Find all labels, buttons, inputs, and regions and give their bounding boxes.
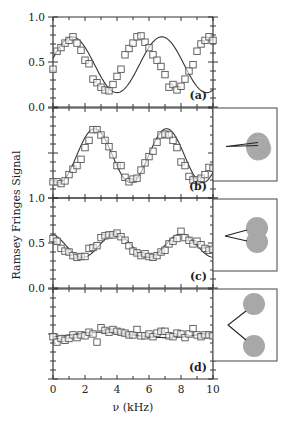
data-point-marker <box>94 339 100 345</box>
sphere-icon <box>246 231 268 253</box>
panel-label: (d) <box>189 361 207 374</box>
data-point-marker <box>138 33 144 39</box>
data-point-marker <box>74 162 80 168</box>
inset-frame <box>213 199 277 271</box>
data-point-marker <box>138 167 144 173</box>
y-tick-label: 1.0 <box>28 11 45 23</box>
data-point-marker <box>154 57 160 63</box>
data-point-marker <box>158 63 164 69</box>
data-point-marker <box>102 137 108 143</box>
data-point-marker <box>86 137 92 143</box>
ramsey-fringes-figure: 1.00.50.0(a)(b)1.00.50.0(c)(d) 0246810 ν… <box>0 0 291 427</box>
data-point-marker <box>70 34 76 40</box>
data-point-marker <box>174 144 180 150</box>
data-point-marker <box>182 162 188 168</box>
data-point-marker <box>190 62 196 68</box>
data-point-marker <box>50 66 56 72</box>
panel-c: 1.00.50.0(c) <box>28 192 218 294</box>
panel-a: 1.00.50.0(a) <box>28 11 218 113</box>
data-point-marker <box>110 152 116 158</box>
data-point-marker <box>78 47 84 53</box>
data-point-marker <box>162 71 168 77</box>
data-point-marker <box>142 160 148 166</box>
data-point-marker <box>130 40 136 46</box>
y-tick-label: 0.0 <box>28 101 45 113</box>
data-point-marker <box>178 228 184 234</box>
data-point-marker <box>86 61 92 67</box>
x-tick-label: 2 <box>82 383 89 395</box>
sphere-icon <box>243 335 265 357</box>
data-point-marker <box>186 68 192 74</box>
data-point-marker <box>118 66 124 72</box>
inset-d <box>213 289 277 361</box>
inset-b <box>213 108 277 181</box>
panel-label: (a) <box>189 89 207 102</box>
panel-d: (d) <box>48 289 218 379</box>
data-point-marker <box>78 156 84 162</box>
y-tick-label: 0.0 <box>28 282 45 294</box>
data-point-marker <box>190 325 196 331</box>
data-point-marker <box>182 76 188 82</box>
data-point-marker <box>94 243 100 249</box>
x-axis-title: ν (kHz) <box>113 401 154 414</box>
y-tick-label: 0.5 <box>28 237 45 249</box>
data-point-marker <box>62 178 68 184</box>
data-point-marker <box>174 235 180 241</box>
data-point-marker <box>202 171 208 177</box>
panels-group: 1.00.50.0(a)(b)1.00.50.0(c)(d) <box>28 11 218 379</box>
panel-label: (b) <box>189 180 207 193</box>
panel-b: (b) <box>48 108 218 198</box>
y-axis-title: Ramsey Fringes Signal <box>10 150 23 279</box>
sphere-icon <box>243 293 265 315</box>
data-point-marker <box>110 81 116 87</box>
data-point-marker <box>154 139 160 145</box>
y-tick-label: 0.5 <box>28 56 45 68</box>
x-tick-label: 8 <box>178 383 185 395</box>
x-axis: 0246810 <box>50 383 220 395</box>
x-tick-label: 6 <box>146 383 153 395</box>
x-tick-label: 10 <box>206 383 219 395</box>
data-point-marker <box>134 326 140 332</box>
data-point-marker <box>146 44 152 50</box>
data-point-marker <box>194 48 200 54</box>
data-point-marker <box>54 238 60 244</box>
data-point-marker <box>82 253 88 259</box>
y-tick-label: 1.0 <box>28 192 45 204</box>
inset-c <box>213 199 277 271</box>
data-point-marker <box>74 40 80 46</box>
data-point-marker <box>210 37 216 43</box>
data-point-marker <box>178 83 184 89</box>
panel-label: (c) <box>190 270 207 283</box>
data-point-marker <box>122 52 128 58</box>
data-point-marker <box>90 331 96 337</box>
data-point-marker <box>106 144 112 150</box>
sphere-icon <box>249 138 271 160</box>
x-tick-label: 4 <box>114 383 121 395</box>
data-point-marker <box>118 162 124 168</box>
x-tick-label: 0 <box>50 383 57 395</box>
data-point-marker <box>106 88 112 94</box>
data-point-marker <box>150 148 156 154</box>
data-point-marker <box>82 144 88 150</box>
data-point-marker <box>162 247 168 253</box>
data-point-marker <box>170 137 176 143</box>
insets-group <box>213 108 277 361</box>
data-point-marker <box>114 73 120 79</box>
data-point-marker <box>134 175 140 181</box>
